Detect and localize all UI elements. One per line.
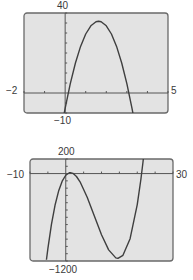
graph-1-ymin-label: −10	[54, 116, 71, 126]
graph-2-xmin-label: −10	[7, 170, 24, 180]
graph-1-xmin-label: −2	[6, 86, 17, 96]
plot-frame	[24, 13, 168, 113]
plot-frame	[30, 159, 173, 261]
graph-2-ymin-label: −1200	[49, 265, 77, 275]
graph-2	[29, 158, 175, 263]
graph-2-xmax-label: 30	[176, 170, 187, 180]
graph-1	[23, 12, 169, 115]
graph-1-xmax-label: 5	[171, 86, 177, 96]
graph-2-ymax-label: 200	[58, 147, 75, 157]
graph-1-ymax-label: 40	[57, 1, 68, 11]
